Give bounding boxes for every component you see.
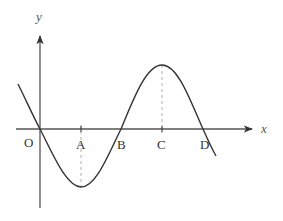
point-label-d: D xyxy=(200,137,209,152)
point-label-c: C xyxy=(157,137,166,152)
y-axis-label: y xyxy=(34,9,42,24)
point-label-o: O xyxy=(24,135,33,150)
function-curve xyxy=(18,65,216,187)
point-label-b: B xyxy=(117,137,126,152)
x-axis-label: x xyxy=(260,121,267,136)
function-graph: y x O A B C D xyxy=(0,0,283,221)
point-label-a: A xyxy=(76,137,86,152)
